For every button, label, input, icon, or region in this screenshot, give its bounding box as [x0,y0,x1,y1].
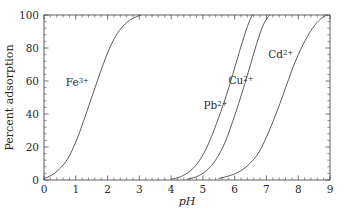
series-label-pb2+: Pb2+ [204,99,228,111]
x-tick-label: 7 [263,183,270,195]
x-axis-label: pH [179,195,196,208]
x-tick-label: 4 [168,183,175,195]
x-tick-label: 1 [72,183,79,195]
curve-fe3+ [44,15,141,178]
series-label-base: Pb [204,99,218,111]
series-label-cu2+: Cu2+ [228,74,253,86]
chart-figure: 0123456789 020406080100 Fe3+Pb2+Cu2+Cd2+… [0,0,345,212]
plot-frame [44,15,330,180]
series-annotations: Fe3+Pb2+Cu2+Cd2+ [66,48,294,111]
series-label-cd2+: Cd2+ [268,48,293,60]
y-tick-label: 80 [26,42,39,54]
x-tick-label: 9 [327,183,334,195]
series-label-superscript: 3+ [79,77,89,85]
axis-frame-rect [44,15,330,180]
y-tick-label: 60 [26,75,39,87]
x-tick-label: 5 [200,183,207,195]
series-label-base: Fe [66,76,79,88]
series-label-base: Cd [268,48,283,60]
x-tick-labels: 0123456789 [41,183,334,195]
series-label-superscript: 2+ [243,75,253,83]
series-label-base: Cu [228,74,243,86]
y-tick-label: 0 [32,174,39,186]
x-tick-label: 8 [295,183,302,195]
axis-ticks [44,15,330,180]
y-tick-labels: 020406080100 [19,9,39,186]
x-tick-label: 0 [41,183,48,195]
curve-cd2+ [219,15,327,178]
series-label-superscript: 2+ [283,49,293,57]
series-label-fe3+: Fe3+ [66,76,89,88]
data-curves [44,15,327,179]
y-tick-label: 20 [26,141,39,153]
x-tick-label: 3 [136,183,143,195]
x-tick-label: 2 [104,183,111,195]
y-tick-label: 40 [26,108,39,120]
y-tick-label: 100 [19,9,39,21]
adsorption-vs-ph-chart: 0123456789 020406080100 Fe3+Pb2+Cu2+Cd2+… [0,0,345,212]
curve-pb2+ [171,15,252,179]
x-tick-label: 6 [231,183,238,195]
y-axis-label: Percent adsorption [3,44,16,150]
series-label-superscript: 2+ [217,100,227,108]
